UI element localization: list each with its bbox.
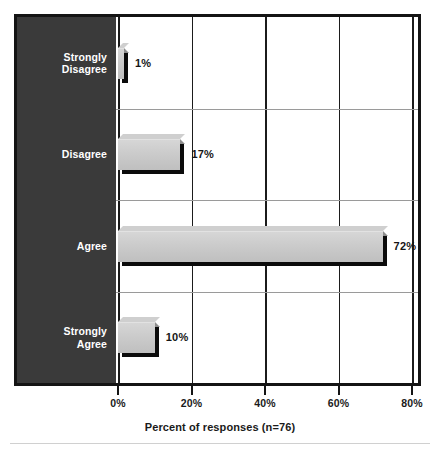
bar-front-face [118,322,155,353]
x-tick-label-80: 80% [401,397,423,409]
plot-area: 1%17%72%10% Strongly DisagreeDisagreeAgr… [17,17,418,383]
x-tick-label-40: 40% [254,397,276,409]
bar-front-face [118,231,383,262]
x-tick-40 [264,386,266,395]
bar-front-face [118,48,124,79]
x-tick-label-0: 0% [110,397,126,409]
x-tick-20 [191,386,193,395]
category-label-1: Disagree [17,148,116,161]
plot-frame: 1%17%72%10% Strongly DisagreeDisagreeAgr… [14,14,421,386]
bar-front-face [118,139,180,170]
bar-value-label-1: 17% [191,148,214,160]
bar-side-face [383,231,388,236]
x-axis-title: Percent of responses (n=76) [0,421,440,433]
horizontal-gridline [116,109,418,110]
bar-side-face [155,322,160,327]
x-tick-label-20: 20% [181,397,203,409]
x-tick-60 [338,386,340,395]
horizontal-gridline [116,200,418,201]
bar-1 [118,139,180,169]
x-tick-label-60: 60% [328,397,350,409]
chart-figure: 1%17%72%10% Strongly DisagreeDisagreeAgr… [0,0,440,449]
category-label-0: Strongly Disagree [17,50,116,75]
footer-divider [10,443,430,444]
bar-value-label-3: 10% [166,331,189,343]
bar-side-face [180,139,185,144]
x-tick-80 [411,386,413,395]
category-label-3: Strongly Agree [17,325,116,350]
horizontal-gridline [116,292,418,293]
bar-0 [118,48,124,78]
bar-side-face [124,48,129,53]
bar-value-label-0: 1% [135,57,151,69]
category-label-2: Agree [17,240,116,253]
bar-2 [118,231,383,261]
x-tick-0 [117,386,119,395]
bar-3 [118,322,155,352]
bar-value-label-2: 72% [394,240,417,252]
